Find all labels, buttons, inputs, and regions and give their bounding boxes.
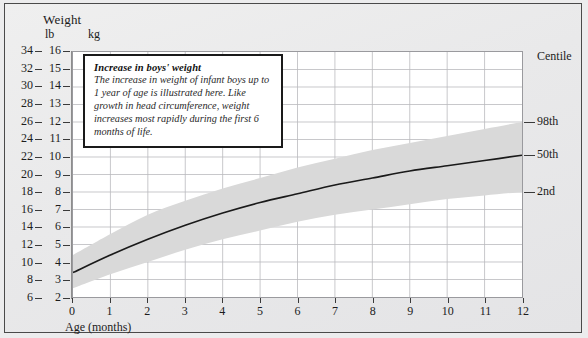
x-tick-label: 7 [323, 304, 347, 319]
kg-tick-label: 3 [39, 272, 61, 287]
x-tick-label: 11 [473, 304, 497, 319]
lb-tick-label: 18 [13, 184, 33, 199]
kg-tick [63, 245, 70, 246]
x-tick-label: 9 [398, 304, 422, 319]
kg-tick-label: 10 [39, 149, 61, 164]
x-tick [110, 298, 111, 303]
kg-tick [63, 157, 70, 158]
x-tick [147, 298, 148, 303]
kg-tick-label: 14 [39, 78, 61, 93]
lb-tick-label: 30 [13, 78, 33, 93]
kg-tick-label: 15 [39, 61, 61, 76]
centile-tick-2nd [524, 192, 535, 193]
centile-tick-50th [524, 155, 535, 156]
centile-tick-98th [524, 122, 535, 123]
lb-tick-label: 16 [13, 202, 33, 217]
x-tick-label: 12 [511, 304, 535, 319]
kg-tick [63, 86, 70, 87]
caption-body: The increase in weight of infant boys up… [94, 74, 273, 139]
kg-tick-label: 7 [39, 202, 61, 217]
x-tick-label: 2 [135, 304, 159, 319]
x-tick-label: 4 [210, 304, 234, 319]
lb-tick-label: 12 [13, 237, 33, 252]
x-tick [448, 298, 449, 303]
x-tick [410, 298, 411, 303]
x-tick [298, 298, 299, 303]
x-tick [485, 298, 486, 303]
lb-tick-label: 22 [13, 149, 33, 164]
x-tick [373, 298, 374, 303]
kg-tick-label: 8 [39, 184, 61, 199]
lb-tick-label: 14 [13, 219, 33, 234]
kg-tick-label: 13 [39, 96, 61, 111]
kg-tick-label: 12 [39, 114, 61, 129]
kg-tick [63, 122, 70, 123]
kg-tick [63, 280, 70, 281]
kg-tick [63, 263, 70, 264]
centile-label-50th: 50th [537, 147, 558, 162]
x-axis-title: Age (months) [65, 320, 131, 335]
x-tick-label: 5 [248, 304, 272, 319]
centile-label-2nd: 2nd [537, 184, 555, 199]
x-tick-label: 0 [60, 304, 84, 319]
kg-tick [63, 298, 70, 299]
kg-tick [63, 210, 70, 211]
unit-label-lb: lb [45, 27, 54, 42]
kg-tick [63, 139, 70, 140]
x-tick-label: 1 [98, 304, 122, 319]
kg-tick [63, 175, 70, 176]
kg-tick [63, 69, 70, 70]
x-tick [523, 298, 524, 303]
kg-tick [63, 227, 70, 228]
lb-tick-label: 10 [13, 255, 33, 270]
x-tick-label: 6 [286, 304, 310, 319]
kg-tick-label: 5 [39, 237, 61, 252]
lb-tick-label: 34 [13, 43, 33, 58]
lb-tick-label: 24 [13, 131, 33, 146]
x-tick-label: 8 [361, 304, 385, 319]
lb-tick-label: 20 [13, 167, 33, 182]
kg-tick-label: 2 [39, 290, 61, 305]
kg-tick [63, 192, 70, 193]
x-tick-label: 3 [173, 304, 197, 319]
kg-tick [63, 51, 70, 52]
x-tick [335, 298, 336, 303]
centile-label-98th: 98th [537, 114, 558, 129]
lb-tick-label: 6 [13, 290, 33, 305]
x-tick [185, 298, 186, 303]
lb-tick-label: 8 [13, 272, 33, 287]
x-tick-label: 10 [436, 304, 460, 319]
lb-tick-label: 32 [13, 61, 33, 76]
kg-tick-label: 16 [39, 43, 61, 58]
caption-box: Increase in boys' weight The increase in… [83, 54, 283, 148]
kg-tick-label: 9 [39, 167, 61, 182]
x-tick [260, 298, 261, 303]
kg-tick-label: 4 [39, 255, 61, 270]
lb-tick-label: 26 [13, 114, 33, 129]
caption-title: Increase in boys' weight [94, 62, 273, 73]
chart-frame: Weight lb kg 681012141618202224262830323… [4, 3, 582, 333]
kg-tick-label: 11 [39, 131, 61, 146]
x-tick [222, 298, 223, 303]
page-title: Weight [43, 12, 81, 28]
kg-tick [63, 104, 70, 105]
lb-tick-label: 28 [13, 96, 33, 111]
x-tick [72, 298, 73, 303]
centile-axis-title: Centile [537, 49, 572, 64]
kg-tick-label: 6 [39, 219, 61, 234]
unit-label-kg: kg [88, 27, 100, 42]
